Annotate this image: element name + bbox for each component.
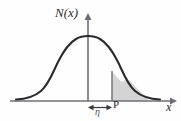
y-axis-label: N(x) [55, 6, 78, 19]
y-axis-arrowhead [85, 13, 92, 20]
normal-distribution-figure: N(x) x P η [0, 0, 181, 121]
point-p-label: P [113, 99, 119, 110]
x-axis-label: x [166, 101, 171, 113]
eta-arrow-right-head [107, 105, 113, 110]
eta-arrow-left-head [88, 105, 94, 110]
distribution-plot-svg [0, 0, 181, 121]
interval-eta-label: η [95, 107, 100, 117]
